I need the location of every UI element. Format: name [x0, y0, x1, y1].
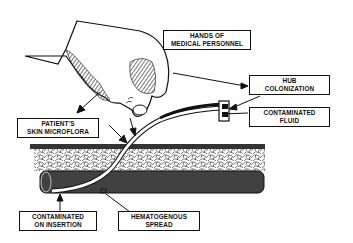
label-contaminated-fluid: CONTAMINATED FLUID — [249, 107, 330, 127]
catheter-hub — [219, 101, 229, 121]
label-line: CONTAMINATED — [20, 213, 96, 221]
label-contaminated-on-insertion: CONTAMINATED ON INSERTION — [19, 211, 97, 231]
hand-illustration — [25, 21, 169, 116]
label-line: MEDICAL PERSONNEL — [164, 40, 250, 48]
label-line: HANDS OF — [164, 32, 250, 40]
label-line: FLUID — [250, 117, 329, 125]
label-line: SPREAD — [119, 221, 199, 229]
label-line: CONTAMINATED — [250, 109, 329, 117]
label-hematogenous-spread: HEMATOGENOUS SPREAD — [118, 211, 200, 231]
label-patients-skin-microflora: PATIENT'S SKIN MICROFLORA — [17, 118, 99, 138]
label-line: HEMATOGENOUS — [119, 213, 199, 221]
skin-tissue-layer — [30, 144, 265, 171]
label-line: PATIENT'S — [18, 120, 98, 128]
label-line: SKIN MICROFLORA — [18, 128, 98, 136]
label-hub-colonization: HUB COLONIZATION — [249, 75, 330, 95]
label-line: ON INSERTION — [20, 221, 96, 229]
label-hands-of-medical-personnel: HANDS OF MEDICAL PERSONNEL — [163, 30, 251, 50]
label-line: HUB — [250, 77, 329, 85]
label-line: COLONIZATION — [250, 85, 329, 93]
